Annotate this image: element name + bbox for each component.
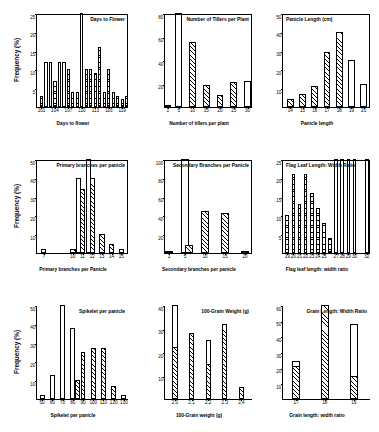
y-tick-label: 20 xyxy=(30,35,37,40)
y-tick-label: 30 xyxy=(158,331,165,336)
histogram-bar xyxy=(353,159,357,253)
x-tick-mark xyxy=(122,107,123,109)
y-tick-label: 60 xyxy=(158,199,165,204)
chart-panel-9: 102030405060171819Grain Length: Width Ra… xyxy=(258,296,376,428)
x-tick-mark xyxy=(112,253,113,255)
histogram-bar xyxy=(41,249,46,253)
x-axis-label: 100-Grain weight (g) xyxy=(140,413,258,418)
x-tick-label: 80 xyxy=(70,401,75,406)
y-tick-mark xyxy=(281,353,283,354)
y-tick-mark xyxy=(281,322,283,323)
x-tick-label: 20 xyxy=(217,109,222,114)
y-tick-mark xyxy=(163,85,165,86)
panel-title: Number of Tillers per Plant xyxy=(166,17,249,24)
y-tick-label: 15 xyxy=(276,199,283,204)
chart-panel-5: 2040608010015101520Secondary Branches pe… xyxy=(140,150,258,282)
panel-title: Panicle Length (cm) xyxy=(286,17,368,24)
y-tick-label: 40 xyxy=(30,181,37,186)
x-tick-mark xyxy=(225,253,226,255)
x-tick-label: 110 xyxy=(78,109,85,114)
histogram-bar xyxy=(80,189,85,253)
y-tick-label: 10 xyxy=(158,378,165,383)
x-tick-mark xyxy=(234,107,235,109)
x-axis-label: Number of tillers per plant xyxy=(140,121,258,126)
histogram-bar xyxy=(285,215,289,253)
plot-area: 2040608010015101520 xyxy=(164,160,252,254)
y-tick-label: 5 xyxy=(279,237,283,242)
histogram-bar xyxy=(304,174,308,253)
x-tick-mark xyxy=(102,253,103,255)
chart-panel-2: 20406080151015202530Number of Tillers pe… xyxy=(140,4,258,136)
x-tick-label: 104 xyxy=(51,109,59,114)
x-tick-label: 120 xyxy=(110,401,118,406)
y-tick-mark xyxy=(163,14,165,15)
x-axis-label: Days to flower xyxy=(12,121,134,126)
histogram-bar xyxy=(322,223,326,253)
chart-panel-1: 510152025101104107110113116119Days to Fl… xyxy=(12,4,134,136)
y-tick-label: 40 xyxy=(276,35,283,40)
panel-title: Secondary Branches per Panicle xyxy=(166,163,249,170)
histogram-bar xyxy=(67,69,70,107)
x-tick-mark xyxy=(318,253,319,255)
y-axis-label: Frequency (%) xyxy=(14,330,20,374)
histogram-bar xyxy=(360,84,367,107)
panel-title: Days to Flower xyxy=(38,17,125,24)
x-tick-mark xyxy=(300,253,301,255)
x-tick-mark xyxy=(185,253,186,255)
x-tick-label: 2.3 xyxy=(222,401,228,406)
histogram-bar xyxy=(292,174,296,253)
y-tick-mark xyxy=(163,216,165,217)
y-tick-label: 40 xyxy=(276,339,283,344)
y-tick-label: 40 xyxy=(158,63,165,68)
y-tick-mark xyxy=(163,377,165,378)
histogram-bar xyxy=(40,395,45,399)
x-tick-mark xyxy=(364,107,365,109)
histogram-bar xyxy=(103,92,106,107)
histogram-bar xyxy=(203,85,210,107)
plot-area: 102030405060171819 xyxy=(282,306,370,400)
x-tick-label: 19 xyxy=(349,109,354,114)
histogram-bar xyxy=(60,305,65,399)
y-tick-label: 40 xyxy=(158,308,165,313)
plot-area: 10203040507101112131415 xyxy=(36,160,128,254)
histogram-bar xyxy=(230,82,237,107)
histogram-bar xyxy=(328,238,332,253)
y-tick-label: 50 xyxy=(276,16,283,21)
histogram-bar xyxy=(324,52,331,107)
x-tick-mark xyxy=(82,107,83,109)
y-tick-mark xyxy=(35,179,37,180)
x-tick-mark xyxy=(290,107,291,109)
y-tick-mark xyxy=(281,52,283,53)
histogram-bar xyxy=(119,249,124,253)
x-tick-mark xyxy=(220,107,221,109)
y-tick-mark xyxy=(163,198,165,199)
y-tick-label: 20 xyxy=(276,181,283,186)
histogram-bar xyxy=(164,105,171,107)
x-tick-mark xyxy=(175,399,176,401)
histogram-bar xyxy=(299,94,306,107)
x-tick-mark xyxy=(83,253,84,255)
x-tick-label: 25 xyxy=(321,255,326,260)
y-tick-label: 40 xyxy=(30,327,37,332)
x-tick-label: 21 xyxy=(297,255,302,260)
x-tick-mark xyxy=(303,107,304,109)
histogram-bar xyxy=(94,73,97,107)
x-tick-mark xyxy=(339,107,340,109)
y-tick-mark xyxy=(281,306,283,307)
histogram-bar xyxy=(58,62,61,107)
x-tick-label: 29 xyxy=(346,255,351,260)
y-tick-mark xyxy=(281,337,283,338)
x-tick-mark xyxy=(73,253,74,255)
x-tick-label: 15 xyxy=(300,109,305,114)
plot-area: 510152025192021222324252728293032 xyxy=(282,160,370,254)
histogram-bar xyxy=(340,159,344,253)
x-tick-mark xyxy=(95,107,96,109)
histogram-bar xyxy=(189,333,194,399)
histogram-bar xyxy=(185,245,193,253)
x-tick-label: 24 xyxy=(315,255,320,260)
x-axis-label: Spikelet per panicle xyxy=(12,413,134,418)
y-tick-label: 60 xyxy=(276,308,283,313)
x-tick-mark xyxy=(83,399,84,401)
x-tick-label: 15 xyxy=(204,109,209,114)
y-tick-label: 50 xyxy=(30,308,37,313)
